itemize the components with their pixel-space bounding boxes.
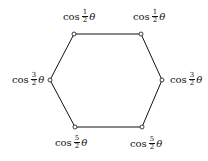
hexagon-outline [50,34,162,127]
label-top-right: cos 12 θ [133,9,165,24]
label-func: cos [170,75,187,85]
label-var: θ [156,139,162,149]
denominator: 2 [153,17,157,24]
label-func: cos [55,138,72,148]
denominator: 2 [32,80,36,87]
label-var: θ [196,75,202,85]
vertex-right [160,78,164,82]
label-fraction: 12 [152,9,158,24]
denominator: 2 [150,144,154,151]
denominator: 2 [83,17,87,24]
label-left: cos 32 θ [12,72,44,87]
vertex-left [48,78,52,82]
label-func: cos [63,12,80,22]
label-bottom-right: cos 52 θ [130,136,162,151]
label-top-left: cos 12 θ [63,9,95,24]
denominator: 2 [190,80,194,87]
label-var: θ [38,75,44,85]
vertex-bottom-left [73,125,77,129]
label-fraction: 12 [82,9,88,24]
denominator: 2 [75,143,79,150]
hexagon-diagram: cos 12 θ cos 12 θ cos 32 θ cos 52 θ cos … [0,0,208,161]
label-func: cos [130,139,147,149]
label-var: θ [159,12,165,22]
label-var: θ [81,138,87,148]
label-func: cos [12,75,29,85]
label-right: cos 32 θ [170,72,202,87]
label-func: cos [133,12,150,22]
label-fraction: 32 [31,72,37,87]
vertex-bottom-right [140,125,144,129]
label-fraction: 52 [74,135,80,150]
label-fraction: 52 [149,136,155,151]
label-fraction: 32 [189,72,195,87]
label-bottom-left: cos 52 θ [55,135,87,150]
vertex-top-right [139,32,143,36]
vertex-top-left [72,32,76,36]
label-var: θ [89,12,95,22]
